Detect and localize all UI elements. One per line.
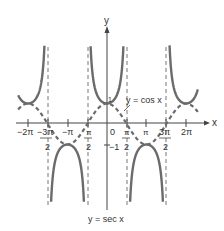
sec-curve (18, 45, 198, 201)
sec-curve-label: y = sec x (88, 214, 124, 224)
y-axis-label: y (104, 15, 109, 26)
x-tick-pi-2-den: 2 (124, 142, 129, 152)
x-tick-neg-3pi-2-num: −3π (37, 127, 53, 137)
y-axis-arrow-icon (105, 26, 110, 33)
sec-branch (18, 46, 44, 104)
x-tick-pi: π (143, 128, 149, 137)
x-tick-neg-pi-2-den: 2 (86, 142, 91, 152)
y-tick-1-label: 1 (108, 96, 112, 103)
x-tick-pi-2-num: π (124, 128, 130, 137)
x-tick-neg-pi: −π (62, 127, 73, 137)
x-tick-neg-2pi: −2π (17, 127, 33, 137)
x-tick-neg-3pi-2-den: 2 (45, 142, 50, 152)
origin-label: 0 (110, 127, 115, 137)
sec-cos-graph: y x 0 1 −1 −2π −3π 2 −π π 2 π 2 π 3π 2 2… (0, 0, 224, 231)
x-tick-3pi-2-den: 2 (163, 142, 168, 152)
x-tick-2pi: 2π (181, 127, 192, 137)
sec-branch (51, 145, 84, 202)
sec-branch (170, 45, 198, 103)
sec-branch (130, 145, 163, 202)
x-axis-label: x (212, 117, 217, 128)
x-axis-arrow-icon (204, 121, 210, 126)
x-tick-neg-pi-2-num: π (86, 128, 92, 137)
cos-curve-label: y = cos x (126, 95, 162, 105)
x-tick-3pi-2-num: 3π (159, 127, 170, 137)
y-tick-neg1-label: −1 (109, 142, 119, 152)
